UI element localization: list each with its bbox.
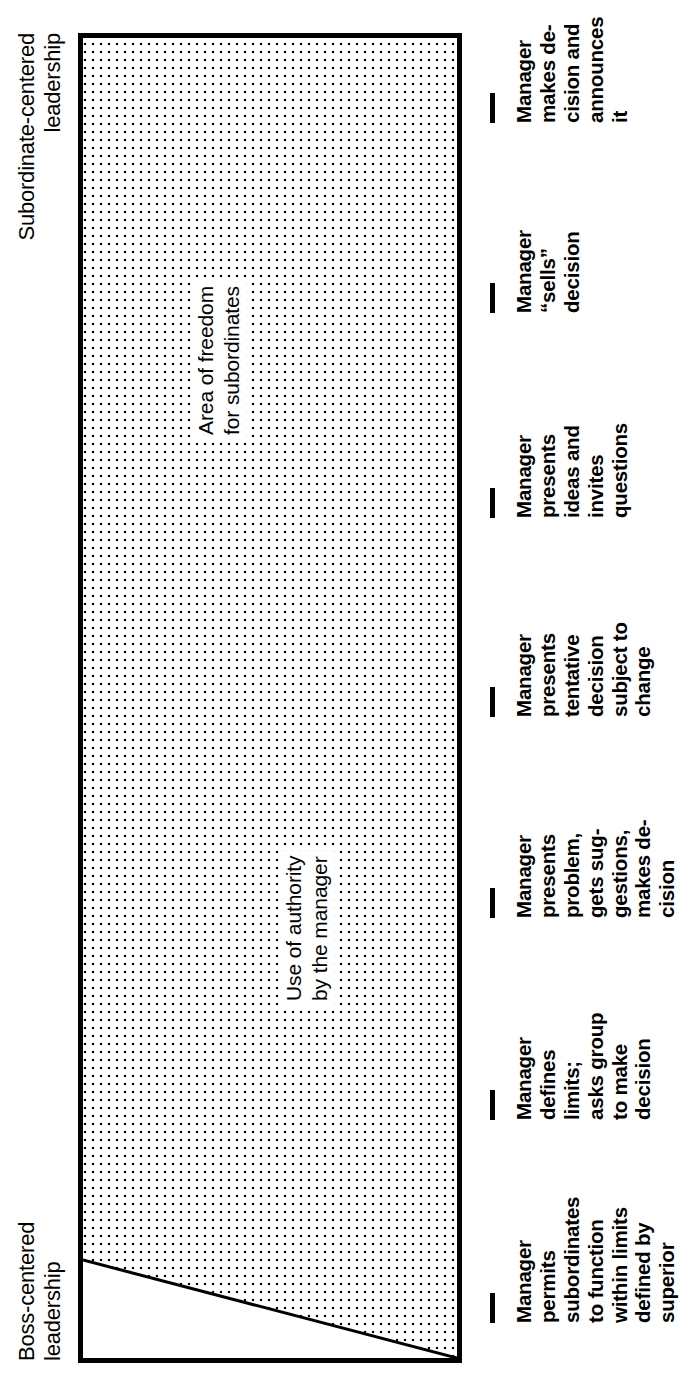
continuum-step-label-5: Manager presents problem, gets sug- gest… bbox=[512, 708, 679, 918]
continuum-tick-4 bbox=[490, 687, 495, 717]
area-of-freedom-label: Area of freedom for subordinates bbox=[191, 281, 246, 440]
diagram-canvas: Boss-centered leadership Subordinate-cen… bbox=[0, 0, 695, 1394]
continuum-tick-7 bbox=[490, 1293, 495, 1323]
continuum-frame: Use of authority by the manager Area of … bbox=[78, 33, 462, 1363]
continuum-step-label-7: Manager permits subordinates to function… bbox=[512, 1113, 679, 1323]
continuum-tick-2 bbox=[490, 283, 495, 313]
subordinate-freedom-wedge bbox=[83, 38, 457, 1358]
continuum-step-label-3: Manager presents ideas and invites quest… bbox=[512, 308, 631, 518]
continuum-tick-5 bbox=[490, 888, 495, 918]
boss-centered-caption: Boss-centered leadership bbox=[14, 1222, 67, 1361]
continuum-tick-3 bbox=[490, 488, 495, 518]
diagonal-divider-line bbox=[83, 38, 457, 1358]
continuum-tick-1 bbox=[490, 93, 495, 123]
continuum-step-label-4: Manager presents tentative decision subj… bbox=[512, 507, 655, 717]
subordinate-centered-caption: Subordinate-centered leadership bbox=[14, 33, 67, 241]
continuum-step-label-2: Manager “sells” decision bbox=[512, 103, 584, 313]
continuum-tick-6 bbox=[490, 1090, 495, 1120]
use-of-authority-label: Use of authority by the manager bbox=[279, 851, 334, 1006]
continuum-step-label-6: Manager defines limits; asks group to ma… bbox=[512, 910, 655, 1120]
